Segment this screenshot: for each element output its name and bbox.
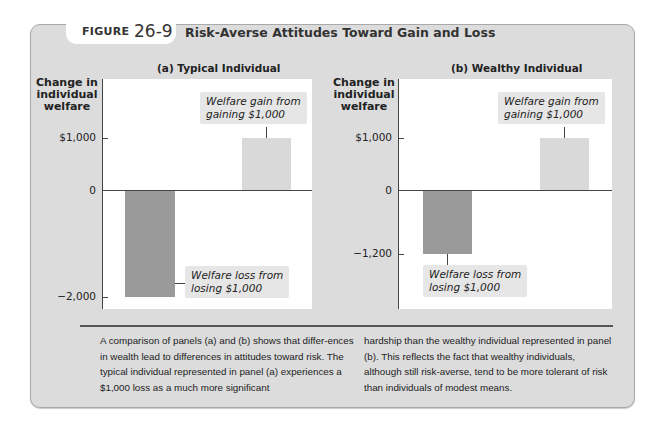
panel-b-gain-leader [564,127,565,138]
panel-b-tick-1000 [398,138,404,139]
panel-a-tick-1000 [102,138,108,139]
panel-a-tick-label-1000: $1,000 [36,131,96,143]
caption-rule [80,325,613,327]
panel-b-y-axis [398,79,399,309]
caption-column-1: A comparison of panels (a) and (b) shows… [100,333,360,395]
panel-a-tick-neg [102,297,108,298]
panel-b-gain-bar [540,138,589,190]
panel-a-gain-bar [242,138,291,190]
figure-title: Risk-Averse Attitudes Toward Gain and Lo… [185,25,495,40]
panel-a-y-axis [102,79,103,309]
panel-b-loss-bar [423,191,472,254]
panel-b-gain-annotation: Welfare gain from gaining $1,000 [498,92,605,124]
panel-a-loss-bar [125,191,175,297]
figure-number: 26-9 [134,21,173,41]
caption-column-2: hardship than the wealthy individual rep… [364,333,614,395]
panel-a-loss-annotation: Welfare loss from losing $1,000 [185,266,289,298]
panel-a-title: (a) Typical Individual [157,62,280,74]
panel-b-tick-label-1000: $1,000 [332,131,392,143]
panel-b-loss-leader [447,254,448,265]
panel-a-ylabel: Change in individual welfare [34,77,100,113]
panel-b-tick-neg [398,254,404,255]
panel-a-tick-label-0: 0 [36,184,96,196]
panel-b-ylabel: Change in individual welfare [330,77,398,113]
panel-a-gain-leader [266,127,267,138]
panel-a-tick-label-neg: −2,000 [36,290,96,302]
panel-a-gain-annotation: Welfare gain from gaining $1,000 [200,92,307,124]
panel-b-loss-annotation: Welfare loss from losing $1,000 [423,265,527,297]
panel-b-title: (b) Wealthy Individual [451,62,582,74]
panel-a-loss-leader [175,283,185,284]
panel-b-tick-label-neg: −1,200 [332,247,392,259]
panel-b-tick-label-0: 0 [332,184,392,196]
figure-label: FIGURE [82,25,129,38]
